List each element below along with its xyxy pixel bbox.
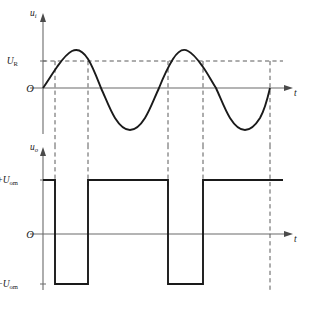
waveform-figure: ui UR O t [0,0,311,310]
output-low-level-label: −Uom [0,279,19,290]
waveform-svg-canvas: ui UR O t [0,0,311,310]
output-t-axis-arrowhead [284,231,293,237]
output-y-axis-arrowhead [40,147,46,156]
output-high-level-label: +Uom [0,175,19,186]
input-origin-label: O [26,83,34,94]
input-t-axis-arrowhead [284,85,293,91]
output-origin-label: O [26,229,34,240]
output-t-axis-label: t [294,234,297,244]
output-y-axis-label: uo [30,142,39,153]
input-sine-waveform [43,50,270,130]
output-square-waveform [43,180,283,284]
threshold-label: UR [7,56,19,67]
input-t-axis-label: t [294,88,297,98]
input-y-axis-arrowhead [40,13,46,22]
input-waveform-panel: ui UR O t [7,8,297,145]
output-waveform-panel: +Uom −Uom uo O t [0,142,297,290]
input-y-axis-label: ui [30,8,37,19]
